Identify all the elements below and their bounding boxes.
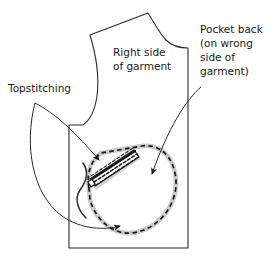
label-pocket-back-line1: Pocket back (200, 23, 264, 35)
label-pocket-back: Pocket back (on wrong side of garment) (200, 23, 264, 77)
label-topstitching-text: Topstitching (7, 82, 71, 94)
diagram-canvas: Topstitching Right side of garment Pocke… (0, 0, 274, 258)
label-pocket-back-line2: (on wrong (200, 37, 253, 49)
label-pocket-back-line3: side of (200, 51, 235, 63)
label-topstitching: Topstitching (7, 82, 71, 94)
sewing-diagram: Topstitching Right side of garment Pocke… (0, 0, 274, 258)
label-right-side-line1: Right side (113, 46, 166, 58)
label-right-side-line2: of garment (113, 60, 171, 72)
label-pocket-back-line4: garment) (200, 65, 249, 77)
